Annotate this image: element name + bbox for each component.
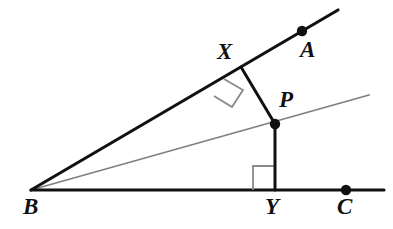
point-label-x: X <box>217 40 232 63</box>
geometry-canvas <box>0 0 393 229</box>
point-label-y: Y <box>265 195 279 218</box>
point-dot-p <box>270 119 280 129</box>
ray-bp-bisector <box>31 95 369 190</box>
point-label-b: B <box>23 195 38 218</box>
right-angle-mark-y <box>253 166 275 190</box>
geometry-diagram: A X P B Y C <box>0 0 393 229</box>
point-dot-a <box>297 26 307 36</box>
point-label-a: A <box>300 38 315 61</box>
right-angle-mark-x <box>214 79 243 107</box>
segment-px <box>241 67 275 124</box>
point-label-p: P <box>279 88 293 111</box>
point-label-c: C <box>337 195 352 218</box>
